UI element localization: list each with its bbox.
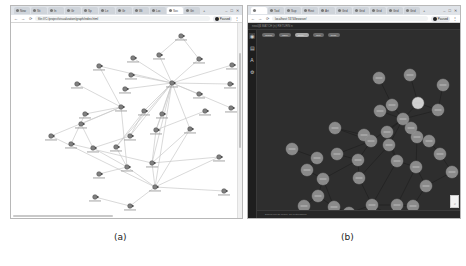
graph-node[interactable]	[383, 139, 395, 151]
graph-node[interactable]	[199, 109, 211, 116]
browser-tab[interactable]: Gr	[116, 7, 132, 14]
browser-tab[interactable]: Rest	[302, 7, 318, 14]
minimize-button[interactable]: –	[225, 8, 227, 13]
browser-tab[interactable]: Sti	[31, 7, 47, 14]
vertical-scrollbar[interactable]	[237, 23, 242, 218]
graph-node[interactable]	[301, 164, 313, 176]
browser-tab[interactable]: Grid	[353, 7, 369, 14]
browser-tab[interactable]: Wi	[133, 7, 149, 14]
maximize-button[interactable]: □	[231, 8, 233, 13]
browser-tab[interactable]: New	[14, 7, 30, 14]
browser-tab[interactable]: Gr	[65, 7, 81, 14]
graph-canvas-light[interactable]	[11, 23, 237, 218]
browser-tab[interactable]	[251, 7, 267, 14]
browser-tab[interactable]: Gri	[184, 7, 200, 14]
close-button[interactable]: ✕	[454, 8, 457, 13]
graph-node[interactable]	[352, 154, 364, 166]
graph-node[interactable]	[434, 148, 446, 160]
graph-node[interactable]	[423, 135, 435, 147]
forward-icon[interactable]: →	[21, 16, 25, 21]
query-bar[interactable]: neo4j$ MATCH (n) RETURN n	[248, 23, 460, 30]
graph-node[interactable]	[420, 180, 432, 192]
browser-tab[interactable]: Tool	[268, 7, 284, 14]
graph-node[interactable]	[153, 53, 165, 60]
chip-text[interactable]: Text	[313, 33, 324, 37]
browser-tab[interactable]: Soc	[167, 7, 183, 14]
graph-node[interactable]	[286, 143, 298, 155]
graph-node[interactable]	[119, 87, 131, 94]
graph-node[interactable]	[218, 189, 230, 196]
graph-node[interactable]	[437, 79, 449, 91]
reload-icon[interactable]: ⟳	[28, 16, 32, 21]
graph-node[interactable]	[365, 135, 377, 147]
new-tab-button[interactable]: +	[201, 8, 207, 13]
url-input[interactable]: file:///C:/project/visualization/graph/i…	[35, 16, 210, 21]
graph-node[interactable]	[374, 105, 386, 117]
browser-tab[interactable]: In	[48, 7, 64, 14]
chip-code[interactable]: Code	[328, 33, 340, 37]
browser-tab[interactable]: Sp	[82, 7, 98, 14]
browser-menu-icon[interactable]: ⋮	[235, 16, 239, 21]
graph-node[interactable]	[386, 99, 398, 111]
graph-node[interactable]	[353, 172, 365, 184]
graph-node[interactable]	[317, 173, 329, 185]
graph-node[interactable]	[312, 190, 324, 202]
address-bar: ← → ⟳ localhost:7474/browser/ Paused ⋮	[248, 15, 460, 23]
back-icon[interactable]: ←	[251, 16, 255, 21]
graph-svg[interactable]	[11, 23, 239, 219]
browser-tab[interactable]: Le	[99, 7, 115, 14]
scrollbar-thumb[interactable]	[239, 53, 241, 148]
graph-node[interactable]	[373, 72, 385, 84]
browser-menu-icon[interactable]: ⋮	[453, 16, 457, 21]
tab-label: Rest	[308, 9, 314, 13]
graph-node[interactable]	[311, 152, 323, 164]
graph-node[interactable]	[224, 82, 236, 89]
chip-table[interactable]: Table	[279, 33, 291, 37]
graph-node[interactable]	[127, 56, 139, 63]
back-icon[interactable]: ←	[14, 16, 18, 21]
chip-entity[interactable]: Entity	[295, 33, 309, 37]
database-icon[interactable]: ◉	[249, 33, 255, 39]
graph-edge	[125, 83, 172, 89]
graph-node[interactable]	[79, 112, 91, 119]
zoom-button[interactable]: ⌕	[450, 195, 459, 208]
graph-node[interactable]	[412, 97, 424, 109]
graph-node[interactable]	[381, 126, 393, 138]
graph-node[interactable]	[404, 69, 416, 81]
graph-node[interactable]	[110, 145, 122, 152]
maximize-button[interactable]: □	[449, 8, 451, 13]
browser-tab[interactable]: Sup	[285, 7, 301, 14]
graph-node[interactable]	[225, 106, 237, 113]
browser-tab[interactable]: Grid	[404, 7, 420, 14]
browser-tab[interactable]: Grid	[387, 7, 403, 14]
reload-icon[interactable]: ⟳	[265, 16, 269, 21]
minimize-button[interactable]: –	[443, 8, 445, 13]
new-tab-button[interactable]: +	[421, 8, 427, 13]
chip-graph[interactable]: Graph	[262, 33, 275, 37]
favorites-icon[interactable]: ▤	[249, 45, 255, 51]
browser-tab[interactable]: Grid	[336, 7, 352, 14]
graph-node[interactable]	[410, 161, 422, 173]
graph-node[interactable]	[71, 82, 83, 89]
browser-tab[interactable]: Art	[319, 7, 335, 14]
graph-node[interactable]	[446, 166, 458, 178]
graph-canvas-dark[interactable]	[257, 41, 460, 210]
profile-button[interactable]: Paused	[213, 16, 232, 22]
graph-svg[interactable]	[257, 41, 461, 215]
graph-node[interactable]	[391, 155, 403, 167]
settings-icon[interactable]: ⚙	[249, 69, 255, 75]
graph-node[interactable]	[331, 148, 343, 160]
graph-node[interactable]	[45, 134, 57, 141]
horizontal-scrollbar[interactable]	[13, 215, 113, 217]
graph-node[interactable]	[329, 122, 341, 134]
forward-icon[interactable]: →	[258, 16, 262, 21]
profile-button[interactable]: Paused	[431, 16, 450, 22]
url-input[interactable]: localhost:7474/browser/	[272, 16, 428, 21]
close-button[interactable]: ✕	[236, 8, 239, 13]
browser-tab[interactable]: Grid	[370, 7, 386, 14]
graph-node[interactable]	[432, 104, 444, 116]
graph-node[interactable]	[213, 155, 225, 162]
browser-tab[interactable]: Loc	[150, 7, 166, 14]
docs-icon[interactable]: A	[249, 57, 255, 63]
graph-node[interactable]	[405, 122, 417, 134]
